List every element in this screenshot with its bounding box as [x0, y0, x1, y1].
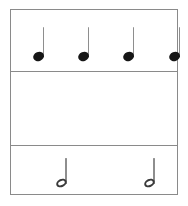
row-quarter-notes [11, 10, 177, 71]
row-half-notes [11, 71, 177, 145]
row-whole-note [11, 145, 177, 194]
note-value-chart-figure [0, 0, 188, 206]
chart-frame [10, 9, 178, 195]
